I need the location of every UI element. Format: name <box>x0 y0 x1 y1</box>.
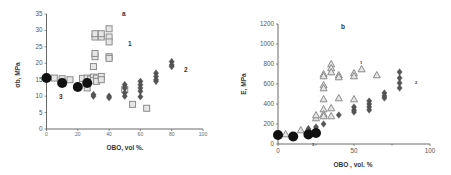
data-point-series-1 <box>90 64 96 70</box>
y-tick-label: 1200 <box>260 20 275 27</box>
data-points-b <box>273 61 402 142</box>
y-tick-label: 5 <box>39 109 43 116</box>
y-axis-label-a: σb, MPa <box>14 62 22 88</box>
x-ticks-a: 020406080100 <box>45 129 207 137</box>
y-tick-label: 25 <box>35 43 43 50</box>
data-point-series-1 <box>98 77 104 83</box>
y-tick-label: 30 <box>35 26 43 33</box>
data-point-series-1 <box>351 96 358 102</box>
x-tick-label: 100 <box>425 147 436 154</box>
series-label-3-a: 3 <box>59 93 63 100</box>
x-axis-label-b: OBO , vol. % <box>333 161 372 169</box>
series-label-3-b: 3 <box>312 142 315 147</box>
series-label-2-b: 2 <box>415 80 418 85</box>
data-point-series-3 <box>57 78 67 88</box>
data-point-series-1 <box>282 131 289 137</box>
data-point-series-1 <box>144 105 150 111</box>
x-tick-label: 100 <box>199 131 208 137</box>
data-point-series-1 <box>358 66 365 72</box>
chart-panel-a: 05101520253035 020406080100 σb, MPa OBO,… <box>14 10 207 152</box>
data-point-series-2 <box>397 69 402 76</box>
y-axis-label-b: E, MPa <box>240 73 248 95</box>
y-tick-label: 600 <box>263 80 274 87</box>
data-point-series-1 <box>335 95 342 101</box>
data-point-series-1 <box>373 72 380 78</box>
data-point-series-1 <box>328 113 335 119</box>
data-point-series-1 <box>51 75 57 81</box>
y-tick-label: 35 <box>35 10 43 17</box>
x-tick-label: 0 <box>276 147 280 154</box>
data-point-series-1 <box>67 77 73 83</box>
data-point-series-1 <box>130 101 136 107</box>
series-label-1-b: 1 <box>360 60 363 65</box>
y-tick-label: 400 <box>263 100 274 107</box>
y-tick-label: 10 <box>35 92 43 99</box>
x-tick-label: 40 <box>106 131 112 137</box>
data-point-series-1 <box>313 112 320 118</box>
y-tick-label: 200 <box>263 120 274 127</box>
chart-panel-b: 020040060080010001200 050100 E, MPa OBO … <box>240 20 436 169</box>
y-ticks-b: 020040060080010001200 <box>260 20 278 147</box>
data-point-series-1 <box>92 50 98 56</box>
data-point-series-1 <box>106 26 112 32</box>
x-tick-label: 50 <box>350 147 358 154</box>
data-point-series-1 <box>106 55 112 61</box>
panel-title-b: b <box>341 23 345 30</box>
data-point-series-1 <box>92 31 98 37</box>
series-label-2-a: 2 <box>184 66 188 73</box>
data-point-series-3 <box>42 73 52 83</box>
data-point-series-1 <box>328 105 335 111</box>
panel-title-a: a <box>122 10 126 17</box>
data-point-series-3 <box>82 78 92 88</box>
y-tick-label: 0 <box>39 125 43 132</box>
data-point-series-1 <box>297 127 304 133</box>
data-point-series-2 <box>397 85 402 92</box>
series-label-1-a: 1 <box>128 40 132 47</box>
data-point-series-3 <box>288 132 298 142</box>
x-tick-label: 20 <box>75 131 81 137</box>
data-point-series-2 <box>321 121 326 128</box>
y-tick-label: 20 <box>35 59 43 66</box>
x-tick-label: 0 <box>45 131 48 137</box>
y-tick-label: 800 <box>263 60 274 67</box>
data-point-series-3 <box>73 82 83 92</box>
y-tick-label: 1000 <box>260 40 275 47</box>
data-point-series-1 <box>106 39 112 45</box>
y-tick-label: 0 <box>270 140 274 147</box>
x-axis-label-a: OBO, vol %. <box>106 144 143 152</box>
data-point-series-2 <box>138 94 143 101</box>
data-point-series-1 <box>98 31 104 37</box>
data-point-series-2 <box>336 112 341 119</box>
x-tick-label: 80 <box>169 131 175 137</box>
x-ticks-b: 050100 <box>276 144 436 154</box>
x-tick-label: 60 <box>138 131 144 137</box>
data-point-series-3 <box>311 128 321 138</box>
figure: 05101520253035 020406080100 σb, MPa OBO,… <box>0 0 451 175</box>
data-point-series-1 <box>320 96 327 102</box>
y-ticks-a: 05101520253035 <box>35 10 46 132</box>
data-point-series-3 <box>273 130 283 140</box>
